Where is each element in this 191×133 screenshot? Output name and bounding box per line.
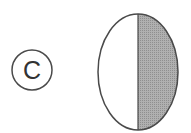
phase-ellipse [98, 14, 178, 130]
diagram-canvas: C [0, 0, 191, 133]
label-letter: C [23, 56, 41, 84]
circled-label: C [12, 50, 52, 90]
